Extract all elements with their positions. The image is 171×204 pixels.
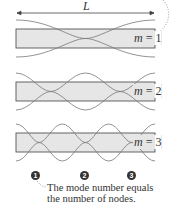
mode-2-label: m = 2 [133, 84, 162, 98]
mode-value: 3 [155, 135, 161, 149]
node-number-3-icon: 3 [127, 171, 136, 180]
equals-sign: = [143, 31, 156, 45]
node-number-2-icon: 2 [80, 171, 89, 180]
m-symbol: m [134, 84, 143, 98]
dotted-arrow-icon [159, 0, 169, 32]
length-label: L [83, 0, 90, 14]
mode-3-label: m = 3 [133, 135, 162, 149]
m-symbol: m [134, 31, 143, 45]
annotation-line-1: The mode number equals [47, 182, 153, 193]
mode-value: 2 [155, 84, 161, 98]
equals-sign: = [143, 84, 156, 98]
node-number-1-icon: 1 [31, 171, 40, 180]
mode-value: 1 [155, 31, 161, 45]
equals-sign: = [143, 135, 156, 149]
annotation-pointer [37, 181, 47, 187]
m-symbol: m [134, 135, 143, 149]
mode-1-label: m = 1 [133, 31, 162, 45]
annotation-line-2: the number of nodes. [47, 193, 136, 204]
